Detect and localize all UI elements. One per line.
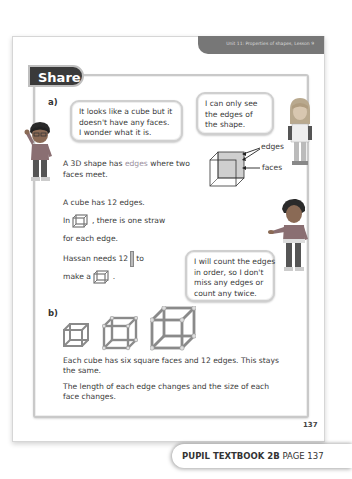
bubble-bottom-line-2: in order, so I don't [194, 268, 266, 279]
girl-character-icon [286, 96, 314, 168]
part-b-label: b) [48, 308, 58, 318]
page-number: 137 [303, 421, 318, 429]
definition-prefix: A 3D shape has [63, 159, 125, 168]
make-pre: make a [63, 272, 91, 281]
hassan-pre: Hassan needs 12 [63, 254, 128, 263]
bubble-left-line-3: I wonder what it is. [79, 128, 174, 139]
bubble-right-line-2: the edges of [205, 110, 265, 121]
definition-line-1: A 3D shape has edges where two [63, 159, 190, 170]
boy-character-icon [22, 120, 58, 182]
label-arrows-icon [240, 146, 262, 182]
bubble-left-line-2: doesn't have any faces. [79, 118, 174, 129]
part-b-para1-line1: Each cube has six square faces and 12 ed… [63, 356, 279, 367]
speech-bubble-right: I can only see the edges of the shape. [196, 92, 274, 135]
straw-cube-small-icon [93, 270, 110, 284]
definition-highlight: edges [125, 159, 148, 168]
cube-edges-text: A cube has 12 edges. [63, 198, 145, 209]
page-label: PAGE 137 [282, 451, 323, 461]
hassan-line: Hassan needs 12to [63, 251, 144, 267]
book-label: PUPIL TEXTBOOK 2B [182, 451, 280, 461]
bubble-bottom-line-4: count any twice. [194, 289, 266, 300]
straw-icon [130, 251, 134, 267]
straw-line-1: In , there is one straw [63, 214, 165, 228]
straw-cube-icon [72, 214, 89, 228]
definition-suffix: where two [148, 159, 190, 168]
large-straw-cube-icon [150, 306, 196, 352]
bubble-left-line-1: It looks like a cube but it [79, 107, 174, 118]
part-b-para2-line2: face changes. [63, 392, 116, 403]
definition-line-2: faces meet. [63, 170, 108, 181]
bubble-bottom-line-3: miss any edges or [194, 278, 266, 289]
hassan-post: to [136, 254, 144, 263]
faces-label: faces [262, 163, 282, 174]
bubble-bottom-line-1: I will count the edges [194, 257, 266, 268]
unit-header-bar: Unit 11: Properties of shapes, Lesson 9 [198, 36, 324, 54]
unit-label: Unit 11: Properties of shapes, Lesson 9 [226, 41, 314, 46]
bubble-right-line-1: I can only see [205, 99, 265, 110]
make-line: make a . [63, 270, 115, 284]
speech-bubble-left: It looks like a cube but it doesn't have… [70, 100, 183, 142]
part-b-para1-line2: the same. [63, 366, 101, 377]
footer-tab: PUPIL TEXTBOOK 2B PAGE 137 [172, 444, 352, 468]
straw-line-1-pre: In [63, 216, 70, 225]
small-straw-cube-icon [62, 322, 90, 350]
medium-straw-cube-icon [102, 316, 138, 352]
speech-bubble-bottom: I will count the edges in order, so I do… [185, 250, 275, 302]
section-title-tab: Share [28, 65, 84, 87]
section-title: Share [38, 70, 81, 85]
straw-line-1-post: , there is one straw [92, 216, 165, 225]
part-a-label: a) [48, 97, 58, 107]
straw-line-2: for each edge. [63, 234, 118, 245]
make-post: . [113, 272, 115, 281]
edges-label: edges [261, 142, 284, 153]
part-b-para2-line1: The length of each edge changes and the … [63, 382, 269, 393]
bubble-right-line-3: the shape. [205, 120, 265, 131]
